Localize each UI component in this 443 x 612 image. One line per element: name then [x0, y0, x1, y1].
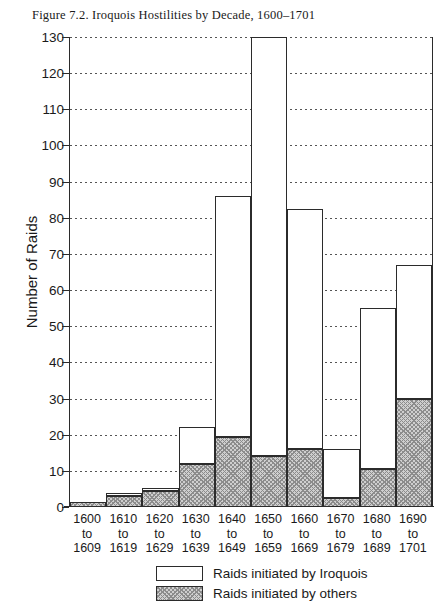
bar-segment-iroquois[interactable] — [251, 37, 287, 456]
y-axis-tick — [62, 326, 69, 327]
bar-column[interactable] — [179, 427, 215, 507]
bar-segment-iroquois[interactable] — [142, 488, 178, 491]
bar-segment-iroquois[interactable] — [215, 196, 251, 436]
chart-plot-area: Number of Raids — [69, 37, 433, 507]
y-axis-tick-label: 120 — [24, 66, 64, 81]
bar-column[interactable] — [323, 449, 359, 507]
x-axis-label-line: to — [178, 527, 214, 542]
x-axis-label-line: 1689 — [359, 541, 395, 556]
y-axis-tick — [62, 290, 69, 291]
x-axis-label-line: to — [105, 527, 141, 542]
x-axis-labels: 1600to16091610to16191620to16291630to1639… — [69, 512, 433, 558]
x-axis-label-line: 1630 — [178, 512, 214, 527]
x-axis-label-line: to — [322, 527, 358, 542]
x-axis-label-line: 1690 — [395, 512, 431, 527]
x-axis-label-line: 1679 — [322, 541, 358, 556]
x-axis-tick-label: 1640to1649 — [214, 512, 250, 556]
x-axis-label-line: 1659 — [250, 541, 286, 556]
x-axis-label-line: 1650 — [250, 512, 286, 527]
x-axis-label-line: 1649 — [214, 541, 250, 556]
y-axis-tick-label: 40 — [24, 355, 64, 370]
x-axis-label-line: 1669 — [286, 541, 322, 556]
y-axis-tick-label: 110 — [24, 102, 64, 117]
legend-swatch-iroquois — [156, 566, 203, 581]
x-axis-tick-label: 1680to1689 — [359, 512, 395, 556]
page-title: Figure 7.2. Iroquois Hostilities by Deca… — [32, 8, 315, 23]
y-axis-tick — [62, 37, 69, 38]
x-axis-tick-label: 1660to1669 — [286, 512, 322, 556]
x-axis-label-line: 1629 — [141, 541, 177, 556]
bar-segment-iroquois[interactable] — [396, 265, 432, 399]
x-axis-label-line: to — [250, 527, 286, 542]
x-axis-label-line: 1701 — [395, 541, 431, 556]
x-axis-label-line: 1609 — [69, 541, 105, 556]
x-axis-label-line: 1680 — [359, 512, 395, 527]
x-axis-label-line: 1640 — [214, 512, 250, 527]
x-axis-tick-label: 1630to1639 — [178, 512, 214, 556]
plot-right-border — [432, 37, 433, 507]
bar-segment-iroquois[interactable] — [360, 308, 396, 469]
chart-legend: Raids initiated by IroquoisRaids initiat… — [156, 566, 368, 606]
legend-item[interactable]: Raids initiated by others — [156, 586, 368, 601]
bar-segment-others[interactable] — [251, 456, 287, 507]
bar-segment-iroquois[interactable] — [179, 427, 215, 463]
x-axis-tick-label: 1690to1701 — [395, 512, 431, 556]
bar-segment-others[interactable] — [323, 498, 359, 507]
y-axis-tick — [62, 507, 69, 508]
y-axis-title: Number of Raids — [23, 216, 40, 329]
bar-column[interactable] — [287, 209, 323, 507]
bar-segment-iroquois[interactable] — [287, 209, 323, 449]
y-axis-tick — [62, 254, 69, 255]
bar-column[interactable] — [106, 493, 142, 507]
y-axis-tick-label: 20 — [24, 427, 64, 442]
bar-segment-others[interactable] — [106, 496, 142, 507]
bar-segment-others[interactable] — [287, 449, 323, 507]
bar-segment-others[interactable] — [179, 464, 215, 507]
y-axis-tick — [62, 73, 69, 74]
x-axis-label-line: to — [286, 527, 322, 542]
bar-column[interactable] — [70, 502, 106, 507]
y-axis-tick — [62, 435, 69, 436]
y-axis-tick-label: 100 — [24, 138, 64, 153]
bar-column[interactable] — [396, 265, 432, 507]
x-axis-label-line: 1600 — [69, 512, 105, 527]
x-axis-tick-label: 1610to1619 — [105, 512, 141, 556]
y-axis-tick — [62, 471, 69, 472]
bar-column[interactable] — [142, 489, 178, 507]
y-axis-tick — [62, 218, 69, 219]
x-axis-tick-label: 1670to1679 — [322, 512, 358, 556]
legend-item[interactable]: Raids initiated by Iroquois — [156, 566, 368, 581]
x-axis-label-line: 1639 — [178, 541, 214, 556]
bar-segment-others[interactable] — [360, 469, 396, 507]
x-axis-tick-label: 1650to1659 — [250, 512, 286, 556]
y-axis-tick-label: 130 — [24, 30, 64, 45]
y-axis-tick — [62, 109, 69, 110]
y-axis-tick — [62, 145, 69, 146]
y-axis-tick-label: 90 — [24, 174, 64, 189]
bar-segment-others[interactable] — [142, 491, 178, 507]
bar-column[interactable] — [251, 37, 287, 507]
x-axis-label-line: to — [141, 527, 177, 542]
bar-column[interactable] — [360, 308, 396, 507]
y-axis-tick-label: 0 — [24, 500, 64, 515]
x-axis-tick-label: 1620to1629 — [141, 512, 177, 556]
y-axis-tick-label: 10 — [24, 463, 64, 478]
y-axis-tick — [62, 182, 69, 183]
legend-label: Raids initiated by Iroquois — [213, 566, 368, 581]
legend-label: Raids initiated by others — [213, 586, 357, 601]
x-axis-label-line: 1660 — [286, 512, 322, 527]
x-axis-tick-label: 1600to1609 — [69, 512, 105, 556]
x-axis-label-line: 1610 — [105, 512, 141, 527]
x-axis-label-line: to — [395, 527, 431, 542]
bar-segment-iroquois[interactable] — [323, 449, 359, 498]
x-axis-label-line: 1620 — [141, 512, 177, 527]
bar-segment-others[interactable] — [215, 437, 251, 508]
x-axis-label-line: 1619 — [105, 541, 141, 556]
x-axis-label-line: to — [69, 527, 105, 542]
bar-segment-others[interactable] — [396, 399, 432, 507]
bar-column[interactable] — [215, 196, 251, 507]
bar-segment-others[interactable] — [70, 502, 106, 507]
bar-segment-iroquois[interactable] — [106, 493, 142, 497]
y-axis-tick — [62, 362, 69, 363]
legend-swatch-others — [156, 586, 203, 601]
